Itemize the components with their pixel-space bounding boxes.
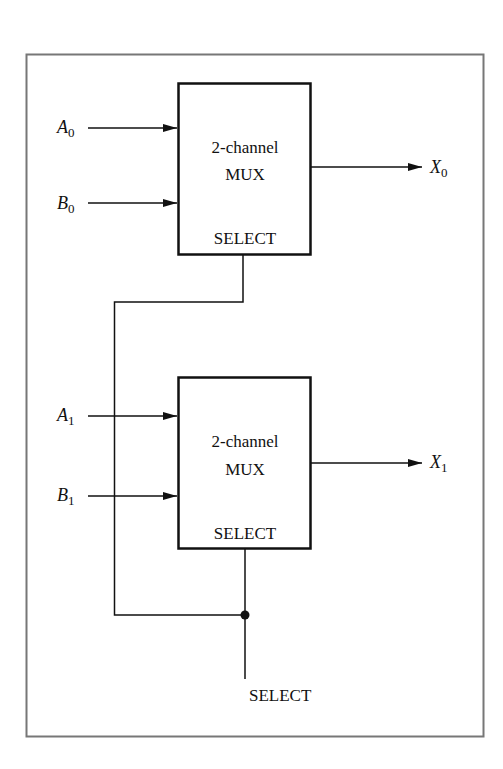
output-label-x0: X0	[430, 158, 448, 179]
mux-bottom-title: 2-channel	[179, 433, 311, 450]
input-label-b1: B1	[57, 486, 75, 507]
mux-bottom-subtitle: MUX	[179, 461, 311, 478]
mux-top-title: 2-channel	[179, 139, 311, 156]
diagram-canvas	[0, 0, 503, 769]
mux-top-subtitle: MUX	[179, 166, 311, 183]
input-label-a1: A1	[57, 406, 75, 427]
input-label-a0: A0	[57, 118, 75, 139]
junction-dot	[241, 611, 250, 620]
mux-bottom-select-label: SELECT	[179, 525, 311, 542]
common-select-label: SELECT	[249, 687, 311, 704]
mux-top-select-label: SELECT	[179, 230, 311, 247]
input-label-b0: B0	[57, 194, 75, 215]
output-label-x1: X1	[430, 453, 448, 474]
